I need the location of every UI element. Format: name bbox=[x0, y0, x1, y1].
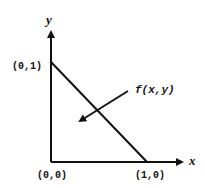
y-axis-label: y bbox=[44, 12, 52, 27]
triangle-domain-diagram: y x (0,1) (0,0) (1,0) f(x,y) bbox=[0, 0, 205, 188]
point-label-origin: (0,0) bbox=[37, 170, 67, 181]
x-axis-label: x bbox=[188, 153, 196, 168]
function-label: f(x,y) bbox=[135, 84, 175, 96]
point-label-y-intercept: (0,1) bbox=[12, 61, 42, 72]
hypotenuse-line bbox=[51, 62, 147, 162]
point-label-x-intercept: (1,0) bbox=[135, 170, 165, 181]
